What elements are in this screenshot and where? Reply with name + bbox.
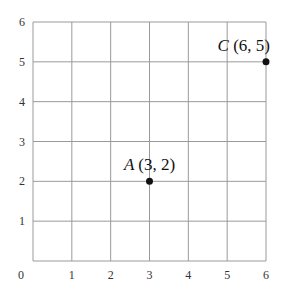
y-tick-label: 1 <box>19 214 25 228</box>
x-tick-label: 4 <box>185 268 191 282</box>
point-c-marker <box>263 58 270 65</box>
x-tick-label: 0 <box>18 268 24 282</box>
y-tick-label: 5 <box>19 55 25 69</box>
x-tick-label: 6 <box>263 268 269 282</box>
y-tick-label: 6 <box>19 15 25 29</box>
x-tick-label: 5 <box>224 268 230 282</box>
x-tick-label: 2 <box>108 268 114 282</box>
point-c-label: C (6, 5) <box>218 36 270 55</box>
y-tick-label: 2 <box>19 174 25 188</box>
point-a-marker <box>146 178 153 185</box>
coordinate-grid: 0123456123456 A (3, 2)C (6, 5) <box>0 0 303 297</box>
y-tick-label: 3 <box>19 135 25 149</box>
x-tick-label: 1 <box>69 268 75 282</box>
x-tick-label: 3 <box>147 268 153 282</box>
y-tick-label: 4 <box>19 95 25 109</box>
axis-tick-labels: 0123456123456 <box>18 15 269 282</box>
plotted-points: A (3, 2)C (6, 5) <box>123 36 270 185</box>
point-a-label: A (3, 2) <box>123 155 175 174</box>
grid-lines <box>33 22 266 261</box>
